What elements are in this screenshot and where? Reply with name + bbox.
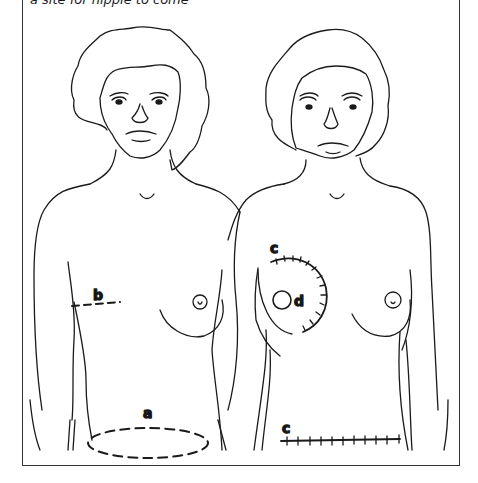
nipple xyxy=(193,295,207,309)
face-outline xyxy=(100,65,180,158)
nipple-site-d xyxy=(273,291,291,309)
hair-outline xyxy=(71,27,209,170)
face-outline xyxy=(291,66,373,158)
incision-c-line xyxy=(281,439,400,441)
nipple xyxy=(385,292,401,308)
breast-outline xyxy=(160,300,223,337)
label-c-arc: c xyxy=(270,240,278,256)
incision-a xyxy=(88,428,208,458)
illustration: b a xyxy=(0,0,478,483)
right-figure xyxy=(228,29,448,450)
left-figure xyxy=(30,27,240,458)
label-b: b xyxy=(93,287,103,303)
breast-outline xyxy=(352,300,410,336)
hair-outline xyxy=(266,29,389,156)
reconstructed-breast-outline xyxy=(258,270,292,334)
label-c-line: c xyxy=(282,420,290,436)
label-a: a xyxy=(143,405,152,421)
label-d: d xyxy=(294,293,304,309)
